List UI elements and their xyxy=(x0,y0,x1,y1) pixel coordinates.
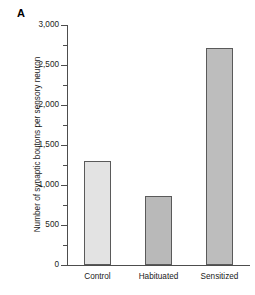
figure-panel: A Number of synaptic boutons per sensory… xyxy=(0,0,255,295)
bar xyxy=(206,48,233,265)
y-tick-label: 1,000 xyxy=(39,181,60,189)
y-tick-label: 2,500 xyxy=(39,61,60,69)
y-tick-label: 3,000 xyxy=(39,21,60,29)
x-category-label: Control xyxy=(84,273,110,281)
x-category-label: Sensitized xyxy=(201,273,239,281)
y-tick-major xyxy=(61,185,67,186)
y-tick-minor xyxy=(63,165,67,166)
y-tick-label: 1,500 xyxy=(39,141,60,149)
y-tick-major xyxy=(61,25,67,26)
x-category-label: Habituated xyxy=(139,273,179,281)
y-tick-minor xyxy=(63,85,67,86)
y-tick-label: 0 xyxy=(54,261,59,269)
bar xyxy=(84,161,111,265)
y-tick-major xyxy=(61,145,67,146)
y-tick-major xyxy=(61,65,67,66)
y-tick-minor xyxy=(63,245,67,246)
y-tick-major xyxy=(61,225,67,226)
y-tick-minor xyxy=(63,125,67,126)
y-axis-line xyxy=(67,25,68,265)
y-tick-minor xyxy=(63,45,67,46)
panel-label: A xyxy=(17,7,25,19)
y-tick-minor xyxy=(63,205,67,206)
y-tick-label: 2,000 xyxy=(39,101,60,109)
plot-area: 05001,0001,5002,0002,5003,000 ControlHab… xyxy=(67,25,250,265)
bar xyxy=(145,196,172,265)
y-tick-major xyxy=(61,265,67,266)
y-tick-major xyxy=(61,105,67,106)
y-tick-label: 500 xyxy=(45,221,59,229)
x-axis-line xyxy=(67,265,250,266)
